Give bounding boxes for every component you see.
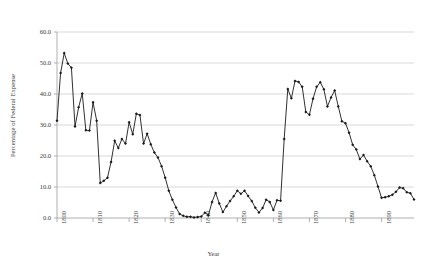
data-point-marker bbox=[290, 97, 293, 100]
data-point-marker bbox=[142, 142, 145, 145]
data-point-marker bbox=[117, 146, 120, 149]
data-point-marker bbox=[74, 125, 77, 128]
data-point-marker bbox=[128, 121, 131, 124]
data-point-marker bbox=[326, 105, 329, 108]
data-point-marker bbox=[337, 105, 340, 108]
data-point-marker bbox=[146, 132, 149, 135]
data-point-marker bbox=[149, 143, 152, 146]
data-point-marker bbox=[131, 133, 134, 136]
data-point-marker bbox=[81, 92, 84, 95]
data-point-marker bbox=[164, 176, 167, 179]
data-point-marker bbox=[56, 119, 59, 122]
data-point-marker bbox=[376, 185, 379, 188]
data-point-marker bbox=[88, 129, 91, 132]
data-point-marker bbox=[135, 112, 138, 115]
x-axis-title: Year bbox=[0, 250, 427, 257]
data-point-marker bbox=[182, 214, 185, 217]
data-point-marker bbox=[214, 191, 217, 194]
data-point-marker bbox=[279, 199, 282, 202]
data-point-marker bbox=[387, 195, 390, 198]
data-point-marker bbox=[294, 79, 297, 82]
data-point-marker bbox=[113, 139, 116, 142]
data-point-marker bbox=[283, 137, 286, 140]
data-line bbox=[57, 53, 414, 217]
data-point-marker bbox=[380, 196, 383, 199]
data-point-marker bbox=[275, 199, 278, 202]
data-point-marker bbox=[95, 119, 98, 122]
data-point-marker bbox=[171, 198, 174, 201]
data-point-marker bbox=[348, 131, 351, 134]
data-point-marker bbox=[312, 97, 315, 100]
data-point-marker bbox=[340, 120, 343, 123]
data-point-marker bbox=[218, 202, 221, 205]
data-point-marker bbox=[211, 200, 214, 203]
data-point-marker bbox=[138, 114, 141, 117]
data-point-marker bbox=[84, 129, 87, 132]
chart-container: Percentage of Federal Expense 0.010.020.… bbox=[0, 0, 427, 269]
data-point-marker bbox=[384, 196, 387, 199]
data-point-marker bbox=[286, 88, 289, 91]
data-point-marker bbox=[110, 160, 113, 163]
data-point-marker bbox=[160, 165, 163, 168]
data-point-marker bbox=[344, 122, 347, 125]
line-plot bbox=[0, 0, 427, 269]
data-point-marker bbox=[63, 52, 66, 55]
data-point-marker bbox=[77, 106, 80, 109]
data-point-marker bbox=[322, 88, 325, 91]
data-point-marker bbox=[59, 71, 62, 74]
data-point-marker bbox=[373, 174, 376, 177]
data-point-marker bbox=[92, 101, 95, 104]
data-point-marker bbox=[167, 189, 170, 192]
data-point-marker bbox=[272, 208, 275, 211]
